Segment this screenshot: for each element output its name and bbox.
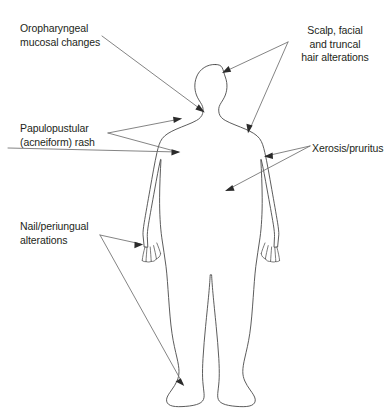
leader-xerosis — [225, 146, 310, 191]
label-oropharyngeal-mucosal-changes: Oropharyngeal mucosal changes — [20, 22, 140, 49]
label-scalp-facial-truncal-hair-alterations: Scalp, facial and truncal hair alteratio… — [286, 24, 384, 65]
left-hand-fingers — [142, 243, 160, 262]
label-xerosis-pruritus: Xerosis/pruritus — [312, 142, 390, 156]
label-papulopustular-acneiform-rash: Papulopustular (acneiform) rash — [20, 122, 140, 149]
arrowhead-xerosis-torso — [225, 185, 235, 191]
arrowhead-nail-foot — [176, 378, 185, 386]
diagram-canvas: Oropharyngeal mucosal changes Papulopust… — [0, 0, 392, 419]
label-nail-periungual-alterations: Nail/periungual alterations — [20, 220, 140, 247]
human-figure-outline — [142, 64, 279, 406]
arrowhead-papulopustular-face — [173, 117, 182, 123]
right-hand-fingers — [261, 243, 279, 262]
arrowhead-papulopustular-chest — [171, 149, 180, 155]
leader-scalp — [222, 42, 288, 133]
leader-nail — [100, 235, 184, 386]
body-silhouette-path — [143, 64, 279, 406]
